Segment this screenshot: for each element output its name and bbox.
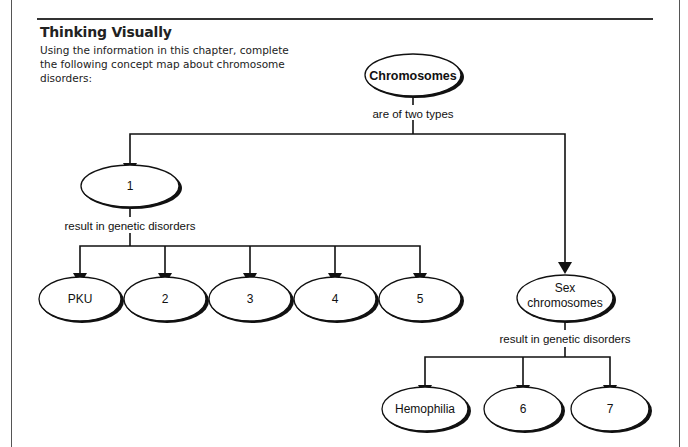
- node-hemophilia: Hemophilia: [382, 387, 471, 433]
- node-label: 2: [162, 292, 169, 306]
- node-blank-3: 3: [209, 277, 294, 323]
- node-label: PKU: [68, 292, 93, 306]
- node-label: Chromosomes: [369, 69, 457, 83]
- node-blank-4: 4: [294, 277, 379, 323]
- node-label: Hemophilia: [395, 402, 455, 416]
- node-label: 7: [607, 402, 614, 416]
- node-chromosomes: Chromosomes: [365, 54, 464, 98]
- connector-branch2-children: [425, 357, 610, 386]
- node-blank-6: 6: [484, 387, 565, 433]
- node-blank-2: 2: [124, 277, 209, 323]
- node-label: 3: [247, 292, 254, 306]
- node-label: 4: [332, 292, 339, 306]
- link-label-two-types: are of two types: [372, 108, 453, 120]
- connector-two-types: [130, 134, 565, 262]
- node-label: 5: [417, 292, 424, 306]
- link-label-result-right: result in genetic disorders: [499, 333, 630, 345]
- node-blank-1: 1: [81, 165, 182, 209]
- concept-map: Chromosomes are of two types 1 result in…: [0, 0, 688, 447]
- node-label-line1: Sex: [555, 281, 576, 295]
- node-blank-5: 5: [379, 277, 464, 323]
- arrowhead-icon: [558, 262, 572, 274]
- node-label: 6: [520, 402, 527, 416]
- node-label: 1: [127, 179, 134, 193]
- node-pku: PKU: [39, 277, 124, 323]
- node-label-line2: chromosomes: [527, 296, 602, 310]
- node-sex-chromosomes: Sex chromosomes: [517, 275, 616, 323]
- node-blank-7: 7: [571, 387, 652, 433]
- link-label-result-left: result in genetic disorders: [64, 220, 195, 232]
